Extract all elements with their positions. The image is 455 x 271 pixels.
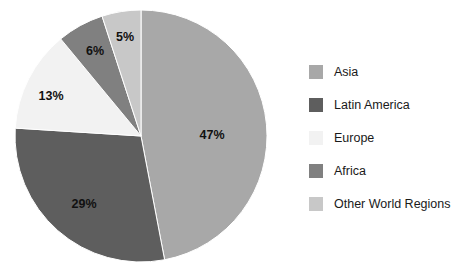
pie-slice-value-label: 29%	[71, 197, 96, 211]
legend-color-swatch	[309, 197, 323, 211]
pie-slice-value-label: 5%	[116, 30, 134, 44]
legend-item[interactable]: Asia	[309, 62, 455, 81]
pie-slice-value-label: 13%	[38, 89, 63, 103]
legend-item-label: Asia	[334, 65, 358, 79]
pie-slice-group	[15, 10, 267, 262]
pie-slice[interactable]	[15, 128, 165, 262]
legend-color-swatch	[309, 98, 323, 112]
chart-legend: AsiaLatin AmericaEuropeAfricaOther World…	[309, 62, 455, 213]
legend-color-swatch	[309, 164, 323, 178]
legend-item[interactable]: Africa	[309, 161, 455, 180]
legend-color-swatch	[309, 65, 323, 79]
legend-item[interactable]: Europe	[309, 128, 455, 147]
legend-item-label: Other World Regions	[334, 197, 451, 211]
pie-slice-value-label: 47%	[199, 128, 224, 142]
legend-item-label: Latin America	[334, 98, 410, 112]
pie-chart-canvas: 47%29%13%6%5%	[0, 0, 290, 271]
pie-chart-figure: 47%29%13%6%5% AsiaLatin AmericaEuropeAfr…	[0, 0, 455, 271]
pie-slice-value-label: 6%	[86, 44, 104, 58]
legend-item[interactable]: Latin America	[309, 95, 455, 114]
legend-item-label: Europe	[334, 131, 374, 145]
legend-item-label: Africa	[334, 164, 366, 178]
legend-color-swatch	[309, 131, 323, 145]
legend-item[interactable]: Other World Regions	[309, 194, 455, 213]
